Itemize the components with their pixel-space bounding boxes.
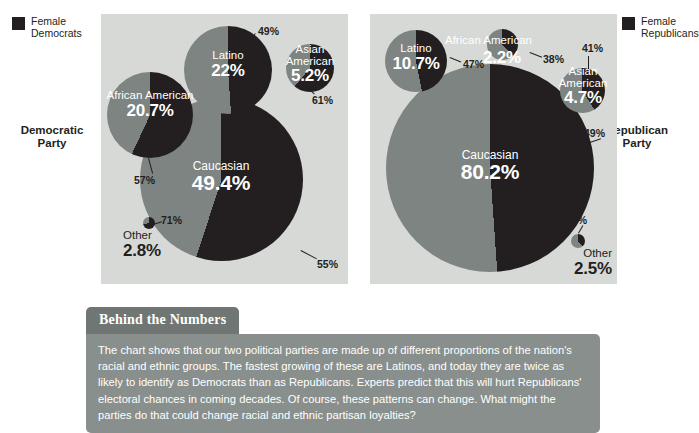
pie-label-asian-american-dem: Asian American 5.2% [273,44,347,85]
callout-other-rep-female: 38% [566,214,587,226]
group-share: 20.7% [103,102,197,119]
group-name: Other [536,248,612,260]
pie-label-other-rep: Other 2.5% [536,248,612,277]
legend-swatch-icon [12,17,25,30]
pie-label-latino-dem: Latino 22% [189,50,267,79]
group-share: 2.5% [536,260,612,277]
callout-caucasian-rep-female: 49% [584,127,605,139]
behind-the-numbers-box: Behind the Numbers The chart shows that … [86,307,600,433]
group-name: Latino [376,43,456,55]
group-name: African American [445,35,561,47]
pie-label-caucasian-dem: Caucasian 49.4% [156,160,286,194]
group-name: African American [103,90,197,102]
callout-other-dem-female: 71% [161,214,182,226]
callout-caucasian-dem-female: 55% [317,258,338,270]
group-name: Latino [189,50,267,62]
group-share: 22% [189,62,267,79]
pie-label-african-american-dem: African American 20.7% [103,90,197,119]
democratic-panel: Caucasian 49.4% 55% Latino 22% 49% Afric… [101,14,348,284]
pie-label-latino-rep: Latino 10.7% [376,43,456,72]
group-share: 4.7% [551,89,615,106]
female-democrats-legend: Female Democrats [12,16,82,39]
female-republicans-legend: Female Republicans [622,16,699,39]
callout-latino-rep-female: 47% [463,58,484,70]
behind-the-numbers-title: Behind the Numbers [86,307,239,334]
pie-label-other-dem: Other 2.8% [123,230,205,259]
pie-other-rep [571,234,585,248]
group-name: Asian American [273,44,347,67]
behind-the-numbers-body: The chart shows that our two political p… [86,334,600,433]
legend-label: Female Republicans [641,16,699,39]
democratic-party-label: Democratic Party [6,124,98,150]
leader-line [588,56,589,69]
group-name: Asian American [551,66,615,89]
group-name: Other [123,230,205,242]
callout-latino-dem-female: 49% [258,25,279,37]
republican-panel: Caucasian 80.2% 49% Latino 10.7% 47% Afr… [370,14,617,284]
group-share: 49.4% [156,172,286,193]
legend-swatch-icon [622,17,635,30]
pie-label-african-american-rep: African American [445,35,561,47]
group-share: 5.2% [273,67,347,84]
leader-line [578,225,583,233]
pie-label-asian-american-rep: Asian American 4.7% [551,66,615,107]
callout-african-american-dem-female: 57% [134,174,155,186]
callout-african-american-rep-female: 38% [543,53,564,65]
callout-asian-american-rep-female: 41% [582,42,603,54]
group-share: 10.7% [376,55,456,72]
group-share: 80.2% [425,161,555,182]
pie-label-caucasian-rep: Caucasian 80.2% [425,149,555,183]
leader-line [301,250,317,259]
group-share: 2.8% [123,242,205,259]
callout-asian-american-dem-female: 61% [312,94,333,106]
legend-label: Female Democrats [31,16,82,39]
